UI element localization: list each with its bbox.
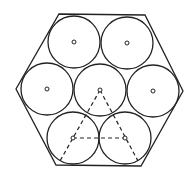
center-marker-middle-left xyxy=(45,87,49,91)
center-marker-center xyxy=(98,88,102,92)
center-markers-group xyxy=(45,40,155,140)
hexagon-circle-packing-diagram xyxy=(0,0,194,177)
center-marker-top-left xyxy=(72,40,76,44)
center-marker-top-right xyxy=(125,41,129,45)
center-marker-bottom-right xyxy=(123,136,127,140)
dashed-lines-group xyxy=(60,90,138,161)
dashed-line-center-to-bottom-left xyxy=(60,90,100,161)
dashed-line-center-to-bottom-right xyxy=(100,90,138,161)
center-marker-bottom-left xyxy=(71,136,75,140)
center-marker-middle-right xyxy=(151,89,155,93)
